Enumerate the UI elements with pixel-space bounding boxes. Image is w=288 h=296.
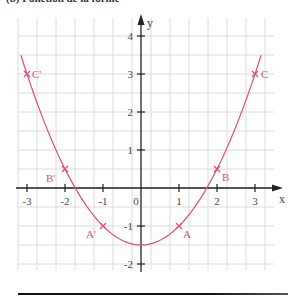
svg-text:C: C (261, 68, 268, 80)
svg-text:3: 3 (252, 195, 258, 207)
svg-text:B': B' (46, 172, 55, 184)
svg-text:2: 2 (214, 195, 220, 207)
svg-text:4: 4 (128, 30, 134, 42)
svg-text:y: y (147, 16, 153, 30)
grid-lines (18, 18, 274, 270)
svg-text:B: B (222, 171, 229, 183)
svg-text:3: 3 (128, 68, 134, 80)
svg-text:-3: -3 (22, 195, 32, 207)
svg-text:2: 2 (128, 106, 134, 118)
svg-text:-1: -1 (124, 220, 133, 232)
parabola-chart: xy-3-2-10123-2-11234 AA'BB'CC' (0, 0, 288, 296)
svg-text:1: 1 (128, 144, 134, 156)
svg-text:A': A' (86, 228, 96, 240)
divider-line (18, 293, 288, 295)
svg-text:-2: -2 (60, 195, 69, 207)
svg-text:-1: -1 (98, 195, 107, 207)
svg-text:x: x (279, 192, 285, 206)
svg-text:C': C' (32, 68, 41, 80)
svg-text:0: 0 (133, 195, 139, 207)
labeled-points: AA'BB'CC' (24, 68, 268, 240)
svg-text:A: A (183, 228, 191, 240)
svg-text:1: 1 (176, 195, 182, 207)
svg-text:-2: -2 (124, 258, 133, 270)
